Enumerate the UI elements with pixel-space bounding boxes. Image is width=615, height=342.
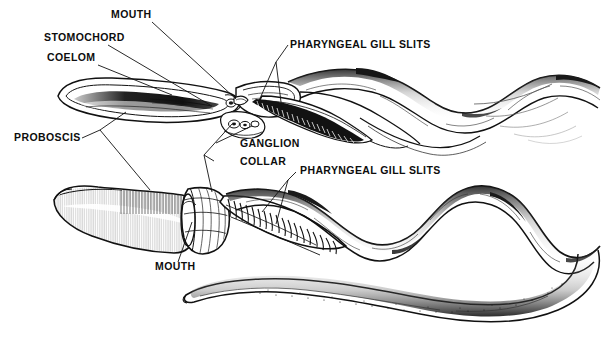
leader-proboscis-stem: [82, 130, 100, 138]
label-pharyngeal-gill-slits-bottom: PHARYNGEAL GILL SLITS: [300, 165, 441, 176]
upper-specimen-sectional: [58, 68, 600, 155]
leader-gillslits-bottom-stem: [288, 172, 296, 180]
label-coelom: COELOM: [47, 52, 95, 63]
anatomical-figure: MOUTH STOMOCHORD COELOM PHARYNGEAL GILL …: [0, 0, 615, 342]
leader-gillslits-top-stem: [276, 45, 288, 62]
label-collar: COLLAR: [240, 156, 286, 167]
label-mouth-top: MOUTH: [111, 9, 152, 20]
label-stomochord: STOMOCHORD: [44, 32, 125, 43]
lower-tail: [183, 250, 599, 322]
collar-external: [181, 187, 229, 254]
label-proboscis: PROBOSCIS: [14, 132, 81, 143]
leader-proboscis-branch-b: [100, 130, 150, 190]
label-ganglion: GANGLION: [240, 138, 300, 149]
label-pharyngeal-gill-slits-top: PHARYNGEAL GILL SLITS: [290, 39, 431, 50]
leader-collar-branch-a: [204, 124, 232, 155]
leader-collar-branch-b: [204, 155, 212, 192]
label-mouth-bottom: MOUTH: [155, 261, 196, 272]
lower-specimen-external: [50, 182, 600, 322]
